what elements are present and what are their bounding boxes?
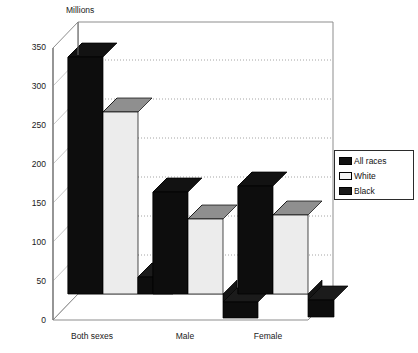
y-tick-50: 50 [6,276,46,286]
legend-label-white: White [354,172,376,181]
y-tick-250: 250 [6,120,46,130]
plot-floor [53,294,333,320]
legend-entry-white: White [339,169,410,183]
legend-label-all-races: All races [354,157,387,166]
y-tick-300: 300 [6,81,46,91]
bar-chart: 350 300 250 200 150 100 50 0 Millions Bo… [0,0,418,353]
chart-legend: All races White Black [334,150,414,200]
y-axis-unit-label: Millions [66,5,94,15]
x-category-male: Male [150,331,220,341]
y-tick-0: 0 [6,315,46,325]
x-category-female: Female [228,331,308,341]
color-swatch-icon [339,157,352,165]
legend-entry-black: Black [339,184,410,198]
y-tick-200: 200 [6,159,46,169]
legend-label-black: Black [354,187,375,196]
y-tick-350: 350 [6,42,46,52]
legend-entry-all-races: All races [339,154,410,168]
y-tick-100: 100 [6,237,46,247]
color-swatch-icon [339,187,352,195]
x-category-both-sexes: Both sexes [44,331,140,341]
color-swatch-icon [339,172,352,180]
y-tick-150: 150 [6,198,46,208]
